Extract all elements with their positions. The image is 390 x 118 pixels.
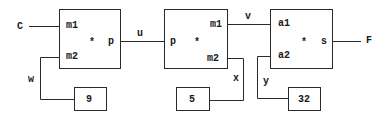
constant-value-9: 9	[86, 95, 92, 105]
output-label-f: F	[366, 36, 372, 46]
block3-port-a2: a2	[278, 51, 290, 61]
block1-operator: *	[89, 38, 95, 48]
block2-operator: *	[194, 38, 200, 48]
block2-port-p: p	[170, 37, 176, 47]
block2-port-m1: m1	[210, 20, 222, 30]
block1-port-m2: m2	[66, 52, 78, 62]
block1-port-p: p	[108, 37, 114, 47]
wire-label-x: x	[233, 74, 239, 84]
wire-label-w: w	[28, 75, 34, 85]
block3-operator: *	[301, 38, 307, 48]
block3-port-a1: a1	[278, 19, 290, 29]
wire-label-v: v	[245, 12, 251, 22]
input-label-c: C	[17, 22, 23, 32]
block1-port-m1: m1	[66, 21, 78, 31]
wire-label-y: y	[263, 77, 269, 87]
block2-port-m2: m2	[207, 54, 219, 64]
wire-label-u: u	[137, 29, 143, 39]
block3-port-s: s	[321, 37, 327, 47]
constant-value-5: 5	[189, 95, 195, 105]
wire-w	[41, 58, 75, 100]
constant-value-32: 32	[298, 95, 310, 105]
